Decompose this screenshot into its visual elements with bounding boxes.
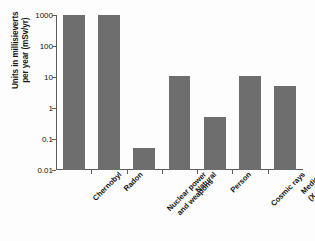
y-axis-line (56, 15, 57, 170)
plot-area (56, 15, 303, 170)
y-tick-mark (52, 15, 56, 16)
bar[interactable] (204, 117, 226, 170)
x-axis-tick-labels: ChernobylRadonNuclear power and weaponsN… (56, 170, 303, 241)
x-tick-label: Chernobyl (91, 170, 124, 203)
bar-chart: Units in millisieverts per year (mSv/yr)… (0, 0, 315, 241)
bar[interactable] (239, 76, 261, 170)
y-tick-mark (52, 139, 56, 140)
bar[interactable] (133, 148, 155, 170)
x-tick-label: Person (228, 170, 253, 195)
bar[interactable] (63, 15, 85, 170)
y-tick-mark (52, 77, 56, 78)
bar[interactable] (274, 86, 296, 170)
y-tick-mark (52, 46, 56, 47)
y-tick-mark (52, 108, 56, 109)
x-tick-label: Radon (122, 170, 146, 194)
bar[interactable] (98, 15, 120, 170)
bar[interactable] (169, 76, 191, 170)
y-axis-tick-labels: 10001001010.10.01 (0, 0, 56, 241)
